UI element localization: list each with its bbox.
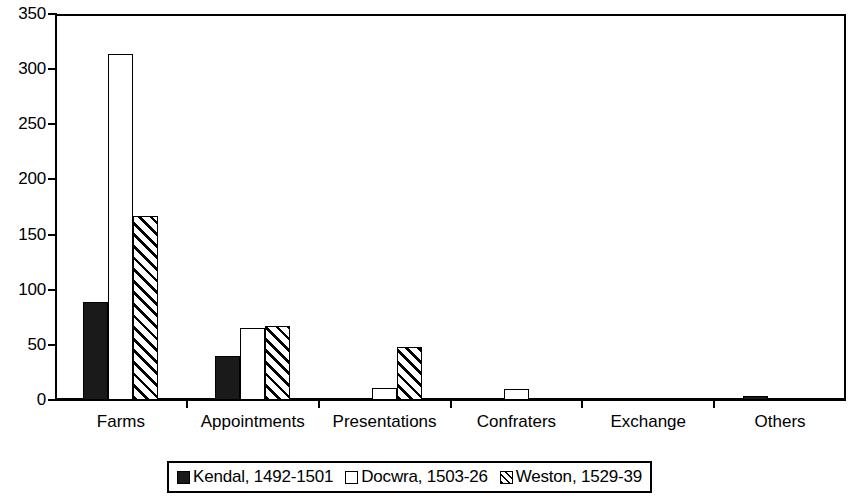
legend-entry: Docwra, 1503-26 bbox=[345, 468, 487, 486]
x-category-label: Presentations bbox=[319, 412, 451, 432]
x-category-label: Farms bbox=[55, 412, 187, 432]
y-tick-label: 100 bbox=[2, 281, 46, 298]
open-white-square-icon bbox=[345, 471, 358, 484]
bar-presentations-series-2 bbox=[397, 347, 422, 400]
chart-legend: Kendal, 1492-1501Docwra, 1503-26Weston, … bbox=[167, 461, 652, 493]
bar-farms-series-0 bbox=[83, 302, 108, 400]
x-tick-mark bbox=[318, 400, 320, 408]
x-category-label: Exchange bbox=[582, 412, 714, 432]
diagonal-hatched-square-icon bbox=[500, 471, 513, 484]
y-tick-label: 150 bbox=[2, 226, 46, 243]
y-axis-labels: 050100150200250300350 bbox=[0, 0, 46, 420]
y-tick-label: 350 bbox=[2, 5, 46, 22]
x-tick-mark bbox=[186, 400, 188, 408]
legend-entry: Kendal, 1492-1501 bbox=[177, 468, 333, 486]
y-tick-label: 250 bbox=[2, 115, 46, 132]
x-axis-labels: FarmsAppointmentsPresentationsConfraters… bbox=[55, 412, 846, 440]
solid-black-square-icon bbox=[177, 471, 190, 484]
x-category-label: Confraters bbox=[451, 412, 583, 432]
x-tick-mark bbox=[713, 400, 715, 408]
bar-confraters-series-0 bbox=[479, 398, 504, 401]
bar-confraters-series-1 bbox=[504, 389, 529, 400]
bar-presentations-series-1 bbox=[372, 388, 397, 400]
y-tick-label: 200 bbox=[2, 170, 46, 187]
x-category-label: Others bbox=[714, 412, 846, 432]
bars-layer bbox=[55, 14, 846, 400]
bar-exchange-series-1 bbox=[636, 398, 661, 401]
bar-presentations-series-0 bbox=[347, 398, 372, 401]
y-tick-label: 50 bbox=[2, 336, 46, 353]
bar-appointments-series-0 bbox=[215, 356, 240, 400]
bar-appointments-series-2 bbox=[265, 326, 290, 400]
bar-farms-series-2 bbox=[133, 216, 158, 400]
bar-exchange-series-2 bbox=[661, 398, 686, 401]
legend-label: Weston, 1529-39 bbox=[516, 468, 642, 486]
legend-entry: Weston, 1529-39 bbox=[500, 468, 642, 486]
x-tick-mark bbox=[581, 400, 583, 408]
bar-chart: 050100150200250300350 FarmsAppointmentsP… bbox=[0, 0, 868, 501]
legend-label: Docwra, 1503-26 bbox=[361, 468, 487, 486]
x-category-label: Appointments bbox=[187, 412, 319, 432]
legend-label: Kendal, 1492-1501 bbox=[193, 468, 333, 486]
y-tick-label: 0 bbox=[2, 391, 46, 408]
y-tick-label: 300 bbox=[2, 60, 46, 77]
bar-others-series-0 bbox=[743, 396, 768, 400]
bar-others-series-2 bbox=[793, 398, 818, 401]
bar-confraters-series-2 bbox=[529, 398, 554, 401]
bar-farms-series-1 bbox=[108, 54, 133, 400]
x-tick-mark bbox=[450, 400, 452, 408]
bar-appointments-series-1 bbox=[240, 328, 265, 400]
